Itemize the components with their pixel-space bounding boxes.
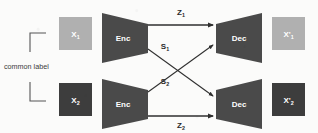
- encoder-bottom-label: Enc: [116, 100, 131, 109]
- edge-s2: [148, 45, 213, 92]
- edge-z2-subscript: 2: [182, 125, 185, 131]
- edge-z2-label: Z2: [177, 121, 185, 131]
- diagram-svg: common label X1 Enc Dec X'1 X2 Enc Dec: [0, 0, 318, 133]
- edge-s1: [148, 49, 213, 96]
- encoder-top-label: Enc: [116, 34, 131, 43]
- figure-canvas: common label X1 Enc Dec X'1 X2 Enc Dec: [0, 0, 318, 133]
- common-label-text: common label: [4, 62, 49, 71]
- output-x2prime-subscript: 2: [291, 100, 294, 106]
- decoder-bottom-label: Dec: [232, 100, 247, 109]
- edge-s1-label: S1: [161, 42, 169, 52]
- decoder-top-label: Dec: [232, 34, 247, 43]
- input-x2-subscript: 2: [77, 100, 80, 106]
- edge-s2-label: S2: [161, 77, 169, 87]
- edge-s1-subscript: 1: [166, 46, 169, 52]
- edge-s2-subscript: 2: [166, 81, 169, 87]
- output-x1prime-subscript: 1: [291, 34, 294, 40]
- input-x1-subscript: 1: [77, 34, 80, 40]
- output-x1prime-symbol: X': [283, 30, 290, 39]
- edge-z1-label: Z1: [177, 8, 185, 18]
- output-x2prime-symbol: X': [283, 96, 290, 105]
- edge-z1-subscript: 1: [182, 12, 185, 18]
